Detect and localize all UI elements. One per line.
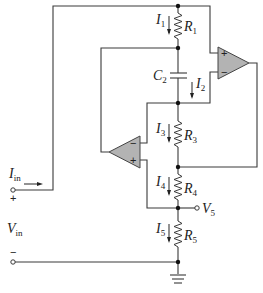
node <box>176 206 180 210</box>
arrow-iin-icon <box>24 182 43 186</box>
node <box>176 165 180 169</box>
label-r3: R3 <box>183 128 198 145</box>
opamp1-plus-sign: + <box>221 47 227 59</box>
label-i1: I1 <box>155 12 165 29</box>
node <box>176 4 180 8</box>
label-r5: R5 <box>183 228 198 245</box>
label-c2: C2 <box>153 68 167 85</box>
arrow-i3-icon <box>167 124 171 143</box>
wire-top-left-loop <box>13 6 178 190</box>
opamp-2: − + <box>109 136 140 168</box>
opamp1-minus-sign: − <box>221 66 227 78</box>
resistor-r4 <box>174 174 182 200</box>
label-iin: Iin <box>8 166 21 183</box>
label-v5: V5 <box>202 201 216 218</box>
opamp2-plus-sign: + <box>130 154 136 166</box>
ground-icon <box>170 275 186 283</box>
opamp-1: + − <box>218 47 249 79</box>
arrow-i1-icon <box>167 16 171 35</box>
node <box>176 46 180 50</box>
label-i2: I2 <box>195 76 205 93</box>
resistor-r1 <box>174 13 182 39</box>
label-vin: Vin <box>7 221 23 238</box>
node <box>176 260 180 264</box>
label-r4: R4 <box>183 181 198 198</box>
label-i4: I4 <box>155 174 166 191</box>
circuit-diagram: + − − + I1 R1 C2 I2 I <box>0 0 263 293</box>
arrow-i4-icon <box>167 177 171 196</box>
node <box>176 101 180 105</box>
resistor-r5 <box>174 221 182 247</box>
label-r1: R1 <box>183 19 197 36</box>
label-i3: I3 <box>155 121 166 138</box>
opamp2-minus-sign: − <box>130 137 136 149</box>
terminal-minus-sign: − <box>10 246 16 258</box>
terminal-plus-sign: + <box>10 192 16 204</box>
terminal-vin-minus <box>11 260 15 264</box>
resistor-r3 <box>174 121 182 147</box>
arrow-i5-icon <box>167 224 171 243</box>
terminal-v5 <box>195 206 199 210</box>
label-i5: I5 <box>155 221 166 238</box>
arrow-i2-icon <box>190 82 194 99</box>
